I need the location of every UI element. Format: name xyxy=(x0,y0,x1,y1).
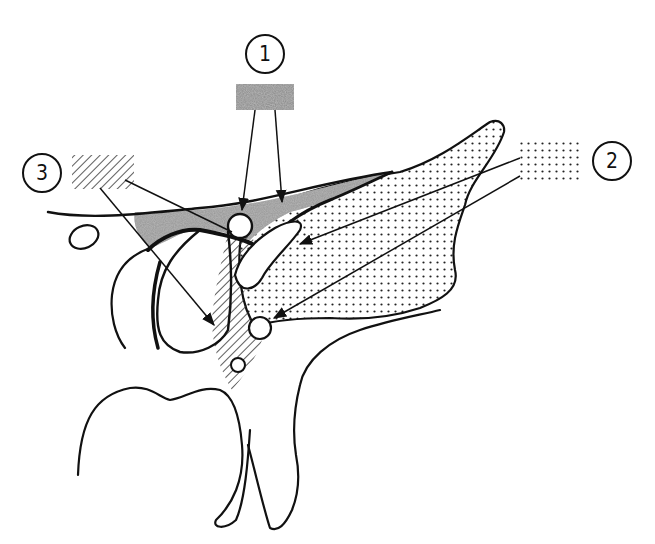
legend-swatch-2 xyxy=(520,142,582,182)
vessel-circle-lower xyxy=(231,358,245,372)
vessel-circle-middle xyxy=(249,317,271,339)
legend-swatch-3 xyxy=(72,155,134,189)
legend-swatch-1 xyxy=(236,84,294,110)
dotted-region xyxy=(239,121,504,326)
vessel-circle-upper xyxy=(228,214,252,238)
callout-label-1: 1 xyxy=(245,34,285,74)
arrow-1a xyxy=(242,110,255,210)
callout-label-2: 2 xyxy=(592,141,632,181)
anatomical-diagram xyxy=(0,0,655,544)
arrow-1b xyxy=(275,110,282,202)
callout-label-3: 3 xyxy=(22,153,62,193)
